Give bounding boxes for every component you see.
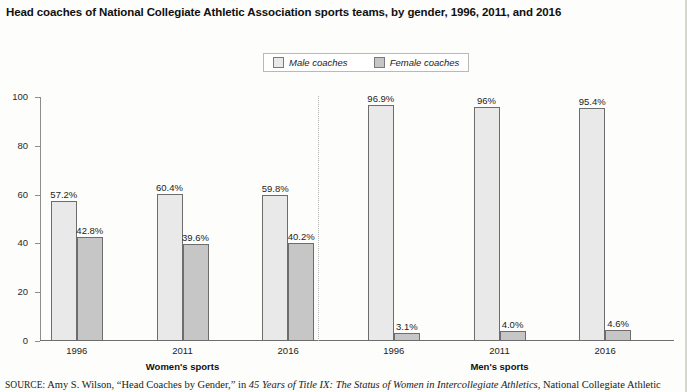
bar-value-label: 59.8%	[262, 183, 289, 194]
bar-value-label: 95.4%	[579, 96, 606, 107]
bar-value-label: 57.2%	[50, 189, 77, 200]
legend-item-female[interactable]: Female coaches	[374, 57, 460, 68]
x-axis-tick-label: 2016	[560, 345, 650, 356]
x-axis-tick-label: 1996	[32, 345, 122, 356]
y-axis-tick	[35, 341, 40, 342]
bar-value-label: 60.4%	[156, 182, 183, 193]
bar-value-label: 40.2%	[288, 231, 315, 242]
bar-value-label: 96%	[477, 95, 496, 106]
x-axis-tick-label: 2016	[243, 345, 333, 356]
chart-page: Head coaches of National Collegiate Athl…	[0, 0, 687, 392]
bar-female[interactable]: 4.6%	[605, 330, 631, 341]
source-prefix: SOURCE:	[5, 380, 45, 390]
y-axis-tick	[35, 146, 40, 147]
bar-female[interactable]: 42.8%	[77, 237, 103, 341]
legend-label-male: Male coaches	[289, 57, 348, 68]
source-italic-title: 45 Years of Title IX: The Status of Wome…	[249, 379, 538, 390]
y-axis-tick-label: 20	[2, 286, 28, 297]
bar-female[interactable]: 3.1%	[394, 333, 420, 341]
y-axis-tick-label: 60	[2, 189, 28, 200]
legend-item-male[interactable]: Male coaches	[273, 57, 348, 68]
bar-value-label: 96.9%	[367, 93, 394, 104]
panel-label: Women's sports	[93, 361, 273, 372]
x-axis-tick-label: 2011	[138, 345, 228, 356]
y-axis-tick	[35, 292, 40, 293]
y-axis-tick-label: 100	[2, 91, 28, 102]
panel-divider	[318, 96, 319, 341]
legend-swatch-female-icon	[374, 57, 385, 68]
bar-male[interactable]: 59.8%	[262, 195, 288, 341]
bar-female[interactable]: 4.0%	[500, 331, 526, 341]
page-title: Head coaches of National Collegiate Athl…	[6, 6, 666, 18]
y-axis-tick	[35, 243, 40, 244]
source-note: SOURCE: Amy S. Wilson, “Head Coaches by …	[5, 379, 683, 390]
bar-male[interactable]: 96.9%	[368, 105, 394, 341]
y-axis-tick-label: 40	[2, 237, 28, 248]
bar-male[interactable]: 96%	[474, 107, 500, 341]
bar-value-label: 42.8%	[76, 225, 103, 236]
bar-value-label: 4.6%	[607, 318, 629, 329]
plot-area: 02040608010057.2%42.8%199660.4%39.6%2011…	[40, 97, 674, 341]
bar-value-label: 4.0%	[502, 319, 524, 330]
x-axis-tick-label: 1996	[349, 345, 439, 356]
y-axis-tick	[35, 195, 40, 196]
source-author: Amy S. Wilson, “Head Coaches by Gender,”…	[45, 379, 249, 390]
panel-label: Men's sports	[410, 361, 590, 372]
bar-female[interactable]: 39.6%	[183, 244, 209, 341]
chart-legend: Male coaches Female coaches	[263, 53, 469, 72]
source-suffix: , National Collegiate Athletic	[538, 379, 661, 390]
legend-swatch-male-icon	[273, 57, 284, 68]
y-axis-tick-label: 80	[2, 140, 28, 151]
bar-male[interactable]: 60.4%	[157, 194, 183, 341]
legend-label-female: Female coaches	[390, 57, 460, 68]
y-axis-tick	[35, 97, 40, 98]
bar-male[interactable]: 95.4%	[579, 108, 605, 341]
bar-male[interactable]: 57.2%	[51, 201, 77, 341]
y-axis-line	[40, 97, 41, 341]
bar-value-label: 3.1%	[396, 321, 418, 332]
y-axis-tick-label: 0	[2, 335, 28, 346]
x-axis-tick-label: 2011	[455, 345, 545, 356]
bar-female[interactable]: 40.2%	[288, 243, 314, 341]
bar-value-label: 39.6%	[182, 232, 209, 243]
